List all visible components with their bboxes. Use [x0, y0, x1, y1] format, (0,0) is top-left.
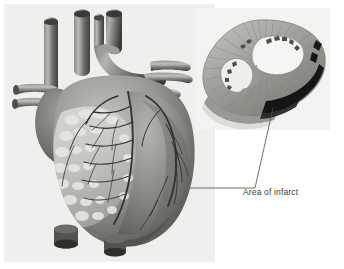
infarct-label: Area of infarct [243, 187, 298, 197]
heart-anterior-view [12, 10, 195, 257]
illustration-canvas [0, 0, 344, 269]
left-ventricle-cavity [252, 36, 304, 75]
pulmonary-vein-upper [150, 61, 191, 71]
ventricles [53, 76, 195, 247]
pulmonary-trunk [74, 10, 90, 77]
ventricular-cross-section [202, 19, 325, 129]
heart-infarct-figure: Area of infarct [0, 0, 344, 269]
